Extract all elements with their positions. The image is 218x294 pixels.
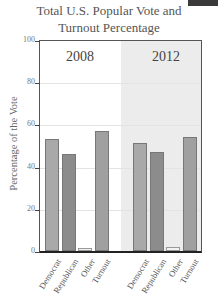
y-tick-label: 60	[13, 119, 35, 128]
bar-2008-democrat	[45, 139, 59, 251]
bar-2008-turnout	[95, 131, 109, 251]
y-tick	[35, 168, 40, 169]
bar-2008-other	[78, 248, 92, 251]
y-tick	[35, 210, 40, 211]
panel-label-2012: 2012	[136, 49, 196, 65]
title-line-2: Turnout Percentage	[0, 19, 218, 36]
y-tick	[35, 252, 40, 253]
y-tick-label: 100	[13, 35, 35, 44]
gridline	[40, 83, 201, 84]
title-line-1: Total U.S. Popular Vote and	[0, 2, 218, 19]
y-axis-label: Percentage of the Vote	[8, 89, 19, 199]
y-tick-label: 80	[13, 77, 35, 86]
bar-2012-other	[166, 247, 180, 251]
chart-title: Total U.S. Popular Vote and Turnout Perc…	[0, 2, 218, 36]
gridline	[40, 125, 201, 126]
bar-2012-republican	[150, 152, 164, 251]
bar-2012-turnout	[183, 137, 197, 251]
bar-2008-republican	[62, 154, 76, 251]
panel-label-2008: 2008	[50, 49, 110, 65]
plot-area: 2008 2012	[39, 40, 202, 253]
y-tick	[35, 41, 40, 42]
y-tick-label: 20	[13, 204, 35, 213]
y-tick-label: 0	[13, 246, 35, 255]
y-tick	[35, 83, 40, 84]
y-tick-label: 40	[13, 162, 35, 171]
y-tick	[35, 125, 40, 126]
bar-2012-democrat	[133, 143, 147, 251]
